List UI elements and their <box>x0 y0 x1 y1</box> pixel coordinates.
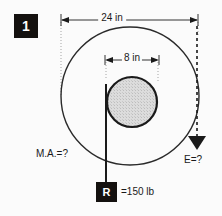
axle-circle <box>107 77 157 127</box>
label-outer-diameter: 24 in <box>98 12 126 23</box>
resistance-weight-box: R <box>96 182 117 202</box>
label-effort: E=? <box>184 154 202 165</box>
problem-number-badge: 1 <box>14 14 38 38</box>
label-mechanical-advantage: M.A.=? <box>36 148 68 159</box>
dimension-arrow-24in-left <box>61 17 69 23</box>
label-inner-diameter: 8 in <box>122 52 142 63</box>
wheel-and-axle-figure: 1 24 in 8 in M.A.=? E=? R =150 lb <box>0 0 222 216</box>
effort-arrowhead-icon <box>188 136 206 150</box>
dimension-arrow-24in-right <box>190 17 198 23</box>
label-resistance-value: =150 lb <box>121 186 154 197</box>
